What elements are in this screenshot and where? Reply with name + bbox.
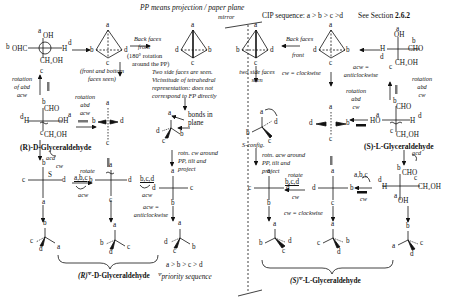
plane-label: plane <box>188 120 204 127</box>
tr1-b: b <box>236 47 240 54</box>
cip-sequence: CIP sequence: a > b > c >d <box>262 12 343 20</box>
r-rotation-abd: abd <box>402 84 442 90</box>
rotation-mid-label: rotation <box>70 94 100 100</box>
f3-b: b <box>42 160 46 167</box>
pr-c: c <box>268 138 271 145</box>
r-cw-def-2: cw = clockwise <box>284 210 323 216</box>
tf-d: d <box>309 120 313 127</box>
side-note-4: correspond to FP directly <box>152 93 217 99</box>
f4-a: a <box>109 162 112 169</box>
f4-b: b <box>89 177 93 184</box>
fr3-ho: HO <box>370 118 380 125</box>
p1-b: b <box>180 131 184 138</box>
f5-a: a <box>171 168 174 175</box>
rpb1-l: b <box>259 240 263 247</box>
fr4-c: c <box>414 175 417 182</box>
fr3-c: c <box>390 128 393 135</box>
rotn-cw: rotn. cw around <box>178 150 218 156</box>
fr1-oh: OH <box>394 32 404 39</box>
f2-h: H <box>24 118 29 125</box>
rotation-abd: of abd <box>4 84 40 90</box>
f2-a: a <box>68 112 71 119</box>
r-front: front <box>292 52 304 58</box>
tr1-caption: two side faces <box>232 69 282 75</box>
name-r-psi-d-glyceraldehyde: (R)Ψ-D-Glyceraldehyde <box>78 271 150 281</box>
around-pp-note: around the PP) <box>132 61 169 67</box>
label-b: b <box>6 44 10 51</box>
side-note-1: Two side faces are seen. <box>152 69 213 75</box>
side-note-2: Vicissitude of tetrahedral <box>152 77 216 83</box>
r-rotation-mid: rotation <box>338 88 374 94</box>
h-atom: H <box>62 46 67 53</box>
tf-a: a <box>329 104 332 111</box>
priority-line: a > b > c > d <box>166 262 203 269</box>
rpb3-r: c <box>420 240 423 247</box>
fr2-a: a <box>267 168 270 175</box>
rpb1-r: d <box>288 238 292 245</box>
rpb3-bot: d <box>410 251 414 258</box>
t3-b: b <box>92 118 96 125</box>
tr2-b: b <box>346 47 350 54</box>
tetra2-a: a <box>191 22 194 29</box>
rpb1-bot: c <box>282 248 285 255</box>
fr2-c: c <box>248 185 251 192</box>
fr2-b: b <box>267 200 271 207</box>
rotation-mid-abd: abd <box>70 102 100 108</box>
rotn-acw: rotn. acw around <box>262 152 305 158</box>
f5-b: b <box>171 200 175 207</box>
f2-cho: CHO <box>44 106 59 113</box>
f5-c: c <box>190 185 193 192</box>
tetra2-b: b <box>208 47 212 54</box>
rotate-bcd-dir: acw <box>142 192 152 198</box>
f2-c: c <box>40 130 43 137</box>
fr6-d: d <box>312 185 316 192</box>
r-back-faces: Back faces <box>286 36 313 42</box>
fr1-c: c <box>389 64 392 71</box>
pp-note: PP means projection / paper plane <box>140 4 244 12</box>
fr6-b: b <box>350 185 354 192</box>
rpb1-top: a <box>273 221 276 228</box>
rotation-acw: acw <box>4 92 40 98</box>
p1-a: a <box>168 110 171 117</box>
pb2-top: a <box>113 222 116 229</box>
t3-a: a <box>106 100 109 107</box>
r-rotate-abc-dir: cw <box>360 196 367 202</box>
fr1-ch2oh: CH₂OH <box>395 60 418 67</box>
r-acw-def: acw = <box>336 64 386 70</box>
tetra1-a: a <box>106 22 109 29</box>
rotation-mid-acw: acw <box>70 110 100 116</box>
rotate-abc: a,b,c <box>74 175 88 182</box>
fr1-cho: CHO <box>408 46 423 53</box>
rpb3-top: b <box>406 223 410 230</box>
pb2-bot: d <box>109 249 113 256</box>
fr3-ch2oh: CH₂OH <box>396 132 419 139</box>
back-faces-label: Back faces <box>134 36 161 42</box>
pb2-r: c <box>127 244 130 251</box>
tetra1-b: b <box>90 47 94 54</box>
tr2-c: c <box>329 60 332 67</box>
p1-d: d <box>156 128 160 135</box>
name-r-d-glyceraldehyde: (R)-D-Glyceraldehyde <box>20 144 91 152</box>
f3-a: a <box>42 199 45 206</box>
r-anticlockwise: anticlockwise <box>336 72 386 78</box>
fr6-a: a <box>331 168 334 175</box>
pb1-top: b <box>43 220 47 227</box>
t3-d: d <box>120 118 124 125</box>
pr-a: a <box>260 109 263 116</box>
r-rotate-abc: a,b,c <box>354 172 368 179</box>
r-acd: acd <box>412 150 421 156</box>
fr4-ch2oh: CH₂OH <box>418 184 441 191</box>
pb1-r: a <box>57 244 60 251</box>
pr-d: d <box>274 119 278 126</box>
fr6-c: c <box>331 200 334 207</box>
pr-b: b <box>246 130 250 137</box>
name-s-psi-l-glyceraldehyde: (S)Ψ-L-Glyceraldehyde <box>290 276 361 286</box>
fr3-cho: CHO <box>396 104 411 111</box>
tf-c: c <box>329 136 332 143</box>
p1-c: c <box>162 138 165 145</box>
rpb2-bot: d <box>337 249 341 256</box>
rpb2-r: b <box>346 238 350 245</box>
label-d: d <box>68 40 72 47</box>
tf-b: b <box>346 120 350 127</box>
rpb2-l: c <box>317 240 320 247</box>
